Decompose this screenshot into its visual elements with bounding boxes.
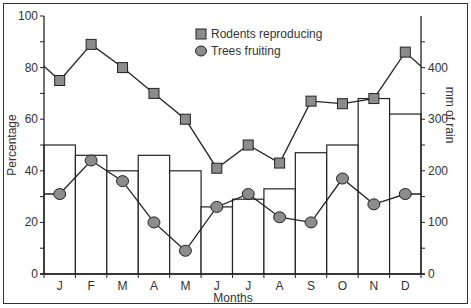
month-label: J	[57, 279, 63, 293]
month-label: M	[180, 279, 190, 293]
month-label: N	[370, 279, 379, 293]
right-tick-label: 200	[428, 164, 448, 178]
rodents-marker-square-icon	[55, 76, 65, 86]
right-axis-title: mm of rain	[443, 87, 457, 144]
trees-marker-circle-icon	[54, 189, 66, 200]
trees-marker-circle-icon	[179, 245, 191, 256]
trees-marker-circle-icon	[368, 199, 380, 210]
left-tick-label: 60	[25, 112, 39, 126]
rainfall-bar	[170, 171, 201, 274]
right-tick-label: 0	[428, 267, 435, 281]
rodents-marker-square-icon	[243, 140, 253, 150]
rainfall-bar	[327, 145, 358, 274]
rodents-marker-square-icon	[86, 39, 96, 49]
x-axis-title: Months	[213, 291, 252, 305]
right-tick-label: 400	[428, 61, 448, 75]
rodents-marker-square-icon	[369, 94, 379, 104]
month-label: M	[118, 279, 128, 293]
rodents-marker-square-icon	[212, 163, 222, 173]
rainfall-bar	[201, 207, 232, 274]
legend-rodents-label: Rodents reproducing	[211, 27, 322, 41]
left-tick-label: 40	[25, 164, 39, 178]
trees-marker-circle-icon	[274, 212, 286, 223]
legend-trees-label: Trees fruiting	[211, 44, 281, 58]
trees-marker-circle-icon	[399, 189, 411, 200]
rainfall-bar	[233, 199, 264, 274]
rodents-marker-square-icon	[306, 96, 316, 106]
chart-canvas: 0204060801000100200300400JFMAMJJASOND Ro…	[0, 0, 471, 308]
rodents-marker-square-icon	[400, 47, 410, 57]
left-tick-label: 0	[31, 267, 38, 281]
legend: Rodents reproducing Trees fruiting	[196, 27, 323, 58]
left-axis-title: Percentage	[5, 114, 19, 176]
legend-square-icon	[196, 29, 206, 39]
month-label: A	[150, 279, 158, 293]
rodents-marker-square-icon	[118, 63, 128, 73]
legend-circle-icon	[196, 46, 207, 56]
right-tick-label: 100	[428, 215, 448, 229]
rainfall-bar	[44, 145, 75, 274]
month-label: S	[307, 279, 315, 293]
rodents-marker-square-icon	[180, 114, 190, 124]
left-tick-label: 100	[18, 9, 38, 23]
rainfall-bar	[264, 189, 295, 274]
trees-marker-circle-icon	[85, 155, 97, 166]
trees-marker-circle-icon	[117, 176, 129, 187]
rainfall-bar	[138, 155, 169, 274]
trees-marker-circle-icon	[242, 189, 254, 200]
left-tick-label: 20	[25, 215, 39, 229]
month-label: A	[276, 279, 284, 293]
rainfall-bar	[358, 99, 389, 274]
rainfall-bars	[44, 99, 421, 274]
rainfall-bar	[295, 153, 326, 274]
month-label: O	[338, 279, 347, 293]
rodents-marker-square-icon	[337, 99, 347, 109]
month-label: F	[87, 279, 94, 293]
rodents-marker-square-icon	[275, 158, 285, 168]
trees-marker-circle-icon	[336, 173, 348, 184]
month-label: D	[401, 279, 410, 293]
trees-marker-circle-icon	[211, 201, 223, 212]
trees-marker-circle-icon	[305, 217, 317, 228]
left-tick-label: 80	[25, 61, 39, 75]
rodents-marker-square-icon	[149, 88, 159, 98]
trees-marker-circle-icon	[148, 217, 160, 228]
